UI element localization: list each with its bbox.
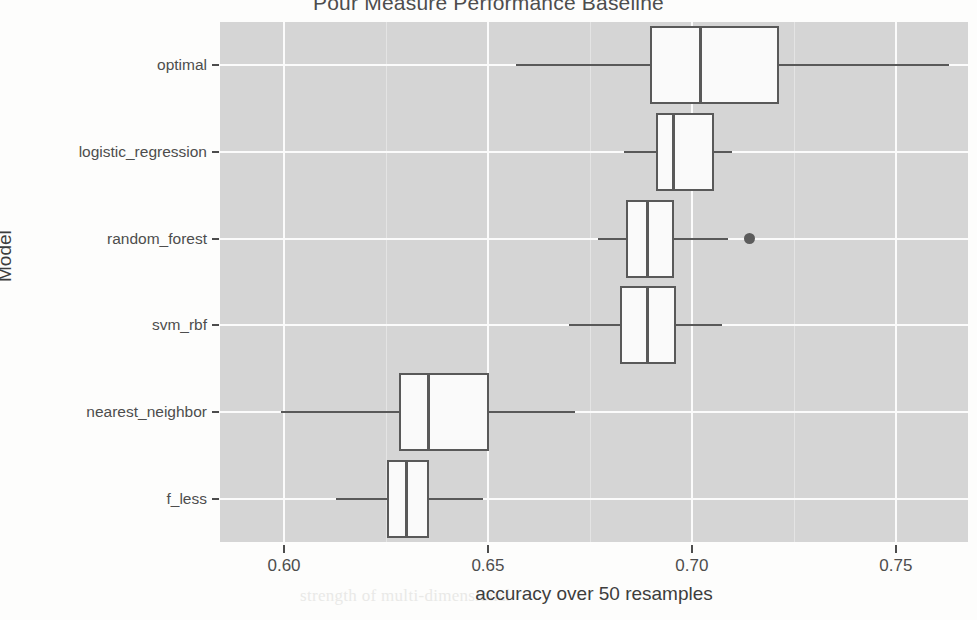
median-nearest_neighbor bbox=[427, 373, 430, 451]
box-random_forest bbox=[626, 200, 674, 278]
gridline-row-f_less bbox=[220, 498, 968, 500]
y-tick-mark-f_less bbox=[212, 498, 219, 500]
gridline-major-vertical bbox=[895, 22, 897, 542]
y-tick-label-nearest_neighbor: nearest_neighbor bbox=[86, 403, 207, 421]
gridline-row-logistic_regression bbox=[220, 151, 968, 153]
median-optimal bbox=[699, 26, 702, 104]
box-logistic_regression bbox=[656, 113, 714, 191]
y-tick-mark-nearest_neighbor bbox=[212, 411, 219, 413]
box-nearest_neighbor bbox=[399, 373, 489, 451]
gridline-minor-vertical bbox=[794, 22, 795, 542]
y-tick-label-logistic_regression: logistic_regression bbox=[79, 143, 207, 161]
outlier-point-random_forest bbox=[744, 233, 755, 244]
x-tick-label-0.65: 0.65 bbox=[471, 556, 504, 576]
x-tick-mark-0.60 bbox=[283, 545, 285, 553]
median-random_forest bbox=[646, 200, 649, 278]
boxplot-figure: is less as possible results, we use the … bbox=[0, 0, 977, 620]
y-tick-mark-optimal bbox=[212, 64, 219, 66]
gridline-major-vertical bbox=[283, 22, 285, 542]
x-tick-label-0.75: 0.75 bbox=[879, 556, 912, 576]
x-tick-mark-0.75 bbox=[895, 545, 897, 553]
x-axis-title: accuracy over 50 resamples bbox=[220, 583, 968, 605]
gridline-minor-vertical bbox=[590, 22, 591, 542]
x-tick-mark-0.70 bbox=[691, 545, 693, 553]
y-tick-label-random_forest: random_forest bbox=[107, 230, 207, 248]
chart-title: Pour Measure Performance Baseline bbox=[0, 0, 977, 15]
gridline-row-random_forest bbox=[220, 238, 968, 240]
y-tick-mark-random_forest bbox=[212, 238, 219, 240]
x-tick-label-0.70: 0.70 bbox=[675, 556, 708, 576]
median-logistic_regression bbox=[672, 113, 675, 191]
y-tick-mark-logistic_regression bbox=[212, 151, 219, 153]
plot-panel bbox=[220, 22, 968, 542]
y-tick-mark-svm_rbf bbox=[212, 324, 219, 326]
x-tick-label-0.60: 0.60 bbox=[267, 556, 300, 576]
y-tick-label-svm_rbf: svm_rbf bbox=[152, 316, 207, 334]
median-f_less bbox=[405, 460, 408, 538]
median-svm_rbf bbox=[646, 286, 649, 364]
y-tick-label-f_less: f_less bbox=[167, 490, 208, 508]
x-tick-mark-0.65 bbox=[487, 545, 489, 553]
y-tick-label-optimal: optimal bbox=[157, 56, 207, 74]
y-axis-title: Model bbox=[0, 230, 16, 282]
gridline-major-vertical bbox=[487, 22, 489, 542]
box-optimal bbox=[650, 26, 779, 104]
